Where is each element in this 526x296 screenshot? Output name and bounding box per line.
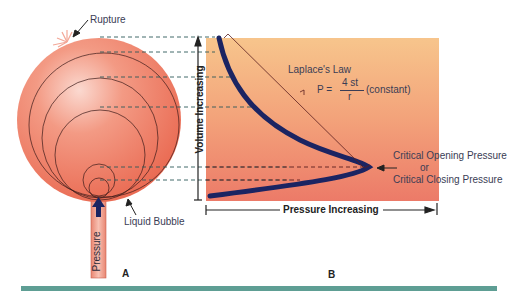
- formula-note: (constant): [366, 84, 410, 95]
- pressure-tube-label: Pressure: [91, 230, 102, 274]
- panel-a-label: A: [122, 268, 129, 279]
- balloon: [17, 38, 181, 202]
- formula-numerator: 4 st: [342, 77, 358, 88]
- liquid-bubble-label: Liquid Bubble: [124, 216, 185, 227]
- critical-or-label: or: [420, 162, 429, 173]
- critical-closing-label: Critical Closing Pressure: [393, 174, 502, 185]
- critical-opening-label: Critical Opening Pressure: [393, 150, 507, 161]
- formula-fraction-bar: [340, 90, 364, 91]
- laplace-diagram: [0, 0, 526, 296]
- rupture-label: Rupture: [90, 14, 126, 25]
- x-axis-label: Pressure Increasing: [283, 204, 379, 215]
- footer-bar: [21, 286, 497, 291]
- formula-denominator: r: [348, 91, 351, 102]
- formula-lhs: P =: [317, 84, 332, 95]
- liquid-bubble-pointer-arrow: [126, 199, 136, 215]
- y-axis-label: Volume Increasing: [194, 55, 205, 165]
- rupture-pointer-arrow: [73, 20, 88, 37]
- law-title: Laplace's Law: [288, 64, 351, 75]
- panel-b-label: B: [328, 269, 335, 280]
